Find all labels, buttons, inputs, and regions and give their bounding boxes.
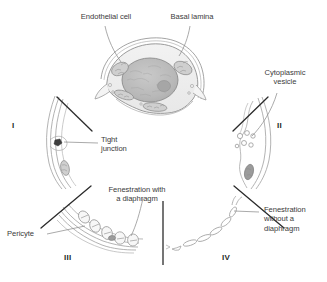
panel-numeral-II: II xyxy=(277,121,282,130)
label-fenestration-with-diaphragm: Fenestration with a diaphragm xyxy=(91,185,183,204)
nucleolus xyxy=(158,81,171,92)
capillary-types-diagram xyxy=(0,0,327,282)
vesicle xyxy=(249,143,253,147)
label-endothelial-cell: Endothelial cell xyxy=(62,12,150,21)
vesicle xyxy=(237,133,242,138)
vesicle xyxy=(245,131,250,136)
label-pericyte: Pericyte xyxy=(7,229,51,238)
vesicle xyxy=(235,144,239,148)
panel-numeral-III: III xyxy=(64,253,72,262)
label-fenestration-without-diaphragm: Fenestration without a diaphragm xyxy=(264,205,324,233)
label-tight-junction: Tight junction xyxy=(101,135,151,154)
vesicle xyxy=(242,141,247,146)
label-basal-lamina: Basal lamina xyxy=(155,12,229,21)
label-cytoplasmic-vesicle: Cytoplasmic vesicle xyxy=(250,68,320,87)
panel-numeral-I: I xyxy=(12,121,15,130)
panel-numeral-IV: IV xyxy=(222,253,230,262)
